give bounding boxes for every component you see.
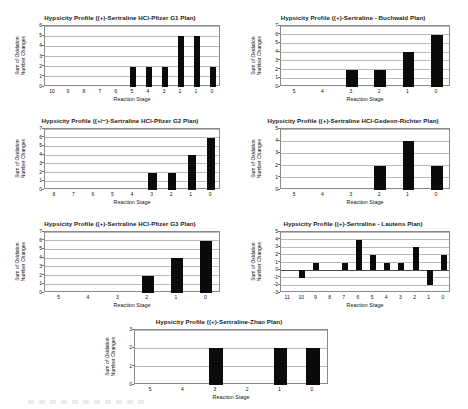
- chart-panel-buchwald: Hypsicity Profile ((+)-Sertraline - Buch…: [250, 14, 456, 106]
- x-tick-label: 3: [116, 293, 119, 302]
- plot-area-pfizer-g3: [44, 231, 220, 292]
- bar: [398, 263, 404, 271]
- bar: [188, 155, 196, 190]
- x-tick-label: 10: [298, 293, 304, 302]
- x-tick-label: 7: [99, 87, 102, 96]
- x-tick-label: 2: [378, 87, 381, 96]
- x-axis-ticks-buchwald: 543210: [280, 87, 450, 96]
- y-tick-mark: [42, 136, 44, 137]
- bar: [207, 138, 215, 190]
- y-tick-mark: [278, 164, 280, 165]
- chart-panel-pfizer-g1: Hypsicity Profile ((+)-Sertraline HCl-Pf…: [14, 14, 226, 106]
- y-tick-mark: [42, 154, 44, 155]
- gridline: [45, 232, 219, 233]
- gridline: [281, 129, 449, 130]
- y-tick-mark: [42, 180, 44, 181]
- gridline: [281, 254, 449, 255]
- bar: [142, 276, 154, 293]
- x-tick-label: 2: [413, 293, 416, 302]
- x-tick-label: 9: [67, 87, 70, 96]
- x-axis-ticks-pfizer-g2: 876543210: [44, 190, 220, 199]
- y-tick-mark: [278, 276, 280, 277]
- y-tick-mark: [132, 365, 134, 366]
- y-tick-mark: [132, 329, 134, 330]
- x-tick-label: 1: [406, 190, 409, 199]
- y-tick-mark: [278, 25, 280, 26]
- y-axis-title-text: Sum of Oxidation Number Changes: [15, 216, 26, 306]
- y-tick-mark: [42, 145, 44, 146]
- y-tick-mark: [42, 239, 44, 240]
- gridline: [281, 247, 449, 248]
- gridline: [281, 52, 449, 53]
- x-tick-label: 5: [111, 190, 114, 199]
- y-axis-title-buchwald: Sum of Oxidation Number Changes: [250, 25, 263, 86]
- x-axis-title-pfizer-g1: Reaction Stage: [44, 96, 220, 103]
- x-tick-label: 6: [91, 190, 94, 199]
- gridline: [281, 69, 449, 70]
- x-tick-label: 0: [442, 293, 445, 302]
- gridline: [45, 258, 219, 259]
- y-axis-title-text: Sum of Oxidation Number Changes: [251, 113, 262, 203]
- page-footer-smudge: [28, 400, 148, 404]
- x-tick-label: 3: [349, 190, 352, 199]
- x-tick-label: 4: [131, 190, 134, 199]
- x-tick-label: 10: [49, 87, 55, 96]
- chart-panel-pfizer-g3: Hypsicity Profile ((+)-Sertraline HCl-Pf…: [14, 220, 226, 312]
- y-tick-mark: [278, 152, 280, 153]
- bar: [346, 70, 358, 87]
- y-axis-title-pfizer-g1: Sum of Oxidation Number Changes: [14, 25, 27, 86]
- gridline: [281, 34, 449, 35]
- gridline: [45, 240, 219, 241]
- bar: [171, 258, 183, 293]
- x-tick-label: 3: [399, 293, 402, 302]
- x-tick-label: 4: [87, 293, 90, 302]
- y-tick-mark: [42, 55, 44, 56]
- y-axis-title-text: Sum of Oxidation Number Changes: [15, 113, 26, 203]
- y-tick-mark: [278, 246, 280, 247]
- x-tick-label: 3: [349, 87, 352, 96]
- x-tick-label: 0: [211, 87, 214, 96]
- x-tick-label: 0: [434, 190, 437, 199]
- x-tick-label: 3: [213, 385, 216, 394]
- x-tick-label: 1: [189, 190, 192, 199]
- x-tick-label: 7: [342, 293, 345, 302]
- y-axis-title-zhao: Sum of Oxidation Number Changes: [104, 329, 117, 384]
- bar: [427, 270, 433, 285]
- bar: [384, 263, 390, 271]
- bar: [374, 70, 386, 87]
- bar: [146, 67, 153, 87]
- x-tick-label: 1: [427, 293, 430, 302]
- x-axis-title-lautens: Reaction Stage: [280, 302, 450, 309]
- y-tick-mark: [42, 45, 44, 46]
- gridline: [281, 78, 449, 79]
- gridline: [281, 285, 449, 286]
- x-tick-label: 0: [204, 293, 207, 302]
- gridline: [135, 348, 327, 349]
- plot-area-buchwald: [280, 25, 450, 86]
- y-tick-mark: [42, 283, 44, 284]
- x-tick-label: 0: [434, 87, 437, 96]
- y-tick-mark: [278, 176, 280, 177]
- x-tick-label: 8: [83, 87, 86, 96]
- bar: [431, 35, 443, 87]
- y-axis-title-lautens: Sum of Oxidation Number Changes: [250, 231, 263, 292]
- gridline: [281, 177, 449, 178]
- bar: [313, 263, 319, 271]
- x-tick-label: 4: [181, 385, 184, 394]
- y-tick-mark: [42, 231, 44, 232]
- gridline: [281, 270, 449, 271]
- y-axis-title-pfizer-g3: Sum of Oxidation Number Changes: [14, 231, 27, 292]
- gridline: [45, 275, 219, 276]
- bar: [370, 255, 376, 270]
- bar: [162, 67, 169, 87]
- gridline: [281, 239, 449, 240]
- bar: [374, 166, 386, 190]
- x-tick-label: 1: [406, 87, 409, 96]
- x-tick-label: 6: [357, 293, 360, 302]
- y-tick-mark: [42, 75, 44, 76]
- y-axis-title-text: Sum of Oxidation Number Changes: [105, 311, 116, 401]
- plot-area-gedeon-richter: [280, 128, 450, 189]
- x-tick-label: 1: [175, 293, 178, 302]
- gridline: [281, 43, 449, 44]
- bar: [178, 36, 185, 87]
